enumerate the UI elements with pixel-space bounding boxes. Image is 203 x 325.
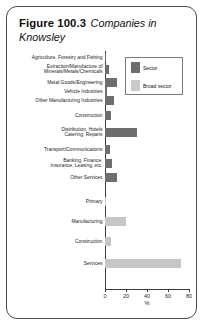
x-axis-tick (105, 289, 106, 292)
category-label-text: Minerals/Metals/Chemicals (44, 69, 102, 74)
chart-plot-area: % 020406080Agriculture, Forestry and Fis… (105, 51, 189, 289)
category-label: Primary (86, 199, 103, 204)
bar (105, 173, 117, 182)
bar (105, 96, 114, 105)
category-label-text: Construction (75, 113, 102, 118)
category-label: Other Services (70, 175, 102, 180)
x-axis-tick-label: 60 (165, 293, 171, 299)
category-label: Construction (75, 239, 102, 244)
bar (105, 145, 110, 154)
x-axis-tick-label: 20 (123, 293, 129, 299)
category-label: Other Manufacturing Industries (35, 98, 102, 103)
category-label: Metal Goods/Engineering (47, 80, 102, 85)
x-axis-tick (189, 289, 190, 292)
category-label: Distribution, HotelsCatering, Repairs (61, 127, 102, 137)
x-axis-tick (147, 289, 148, 292)
category-label-text: Primary (86, 199, 103, 204)
category-label-text: Services (84, 261, 103, 266)
figure-card: Figure 100.3 Companies in Knowsley Secto… (6, 6, 197, 319)
bar (105, 237, 111, 246)
x-axis-tick-label: 40 (144, 293, 150, 299)
bar (105, 78, 117, 87)
category-label: Manufacturing (72, 219, 103, 224)
bar (105, 217, 126, 226)
category-label: Services (84, 261, 103, 266)
category-label-text: Vehicle Industries (64, 89, 102, 94)
x-axis-label: % (145, 300, 150, 306)
category-label-text: Other Services (70, 175, 102, 180)
bar (105, 65, 109, 74)
bar (105, 259, 181, 268)
x-axis-tick-label: 80 (186, 293, 192, 299)
bar (105, 197, 106, 206)
category-label: Transport/Communications (44, 147, 103, 152)
category-label-text: Agriculture, Forestry and Fishing (32, 55, 103, 60)
category-label: Construction (75, 113, 102, 118)
category-label: Vehicle Industries (64, 89, 102, 94)
bar (105, 159, 112, 168)
figure-number: Figure 100.3 (19, 17, 86, 29)
bar (105, 128, 137, 137)
x-axis-tick-label: 0 (104, 293, 107, 299)
category-label: Banking, Finance,Insurance, Leasing, etc… (51, 158, 103, 168)
category-label-text: Manufacturing (72, 219, 103, 224)
category-label-text: Metal Goods/Engineering (47, 80, 102, 85)
category-label-text: Insurance, Leasing, etc. (51, 163, 103, 168)
category-label-text: Construction (75, 239, 102, 244)
bar (105, 53, 106, 62)
figure-title: Figure 100.3 Companies in Knowsley (19, 16, 187, 43)
x-axis-tick (126, 289, 127, 292)
bar (105, 87, 107, 96)
category-label: Extraction/Manufacture ofMinerals/Metals… (44, 64, 102, 74)
x-axis-tick (168, 289, 169, 292)
category-label-text: Catering, Repairs (61, 132, 102, 137)
category-label-text: Transport/Communications (44, 147, 103, 152)
bar (105, 111, 111, 120)
category-label-text: Other Manufacturing Industries (35, 98, 102, 103)
category-label: Agriculture, Forestry and Fishing (32, 55, 103, 60)
